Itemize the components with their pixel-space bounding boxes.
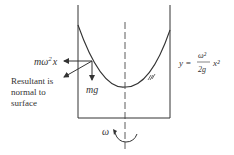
rotation-omega-label: ω: [102, 126, 109, 137]
resultant-label-line1: Resultant is: [11, 76, 54, 86]
resultant-label-line2: normal to: [11, 87, 46, 97]
rotation-arrow-icon: [115, 133, 137, 142]
rotating-container-diagram: mω2x mg Resultant is normal to surface y…: [0, 0, 234, 155]
surface-hatch: [148, 74, 155, 80]
equation-numerator: ω²: [198, 51, 207, 60]
resultant-label-line3: surface: [11, 98, 37, 108]
equation-rhs: x²: [212, 58, 220, 68]
equation-denominator: 2g: [198, 65, 206, 74]
gravity-force-label: mg: [86, 84, 98, 95]
surface-equation: y = ω² 2g x²: [178, 51, 220, 74]
centrifugal-force-label: mω2x: [34, 55, 58, 67]
equation-lhs: y =: [178, 58, 191, 68]
